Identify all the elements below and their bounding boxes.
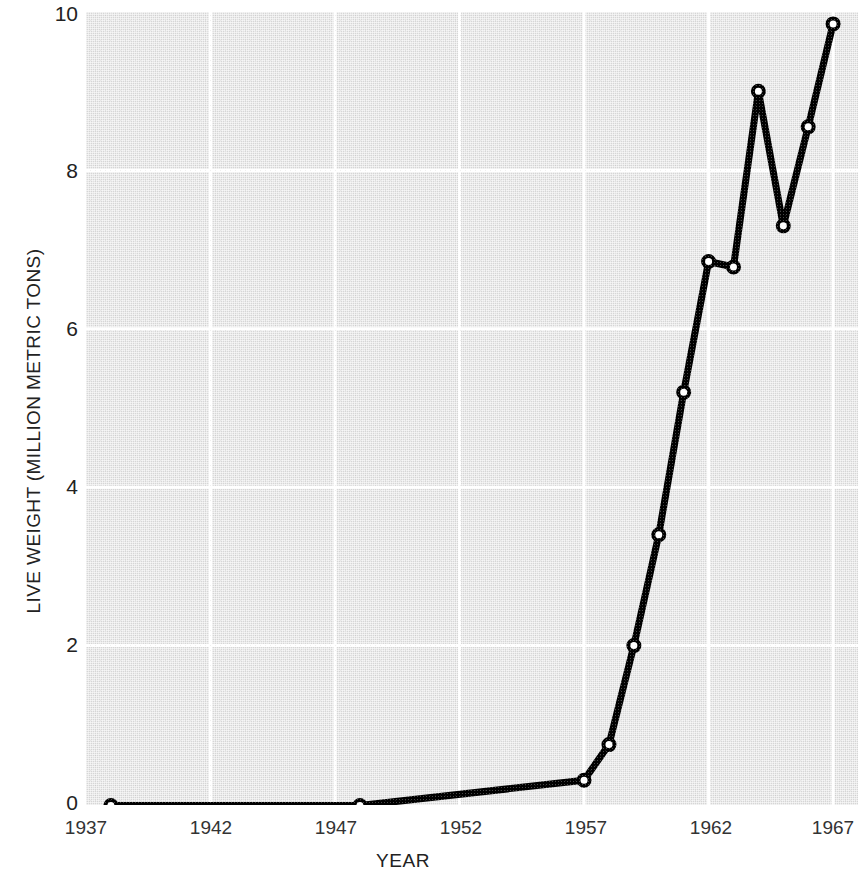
data-point-marker [753,86,764,97]
data-point-marker [105,800,116,805]
x-tick-label: 1947 [291,818,381,837]
gridlines [86,12,858,805]
data-point-marker [678,387,689,398]
x-axis-title: YEAR [343,850,463,872]
x-tick-label: 1952 [416,818,506,837]
x-tick-label: 1942 [166,818,256,837]
data-point-marker [728,262,739,273]
data-point-marker [703,256,714,267]
x-axis-tick-labels: 1937 1942 1947 1952 1957 1962 1967 [0,818,858,848]
data-point-marker [803,121,814,132]
data-point-marker [354,800,365,805]
x-tick-label: 1957 [541,818,631,837]
data-point-marker [603,739,614,750]
y-tick-label: 0 [18,792,78,813]
line-chart-svg [86,12,858,805]
y-tick-label: 2 [18,634,78,655]
x-tick-label: 1967 [788,818,858,837]
data-point-marker [828,18,839,29]
data-point-marker [579,775,590,786]
y-axis-tick-labels: 10 8 6 4 2 0 [0,0,78,877]
y-tick-label: 10 [18,3,78,24]
plot-area [86,12,858,805]
data-series [105,18,838,805]
x-tick-label: 1937 [41,818,131,837]
data-point-marker [653,529,664,540]
series-line [111,24,833,805]
y-tick-label: 4 [18,476,78,497]
x-tick-label: 1962 [666,818,756,837]
y-tick-label: 8 [18,160,78,181]
data-point-marker [628,640,639,651]
chart-figure: LIVE WEIGHT (MILLION METRIC TONS) 10 8 6… [0,0,858,877]
y-tick-label: 6 [18,318,78,339]
data-point-marker [778,220,789,231]
